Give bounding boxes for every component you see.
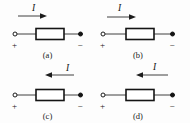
- panel-c-diagram: I + − (c): [0, 61, 95, 122]
- current-arrow-head-b: [129, 14, 136, 20]
- caption-c: (c): [43, 111, 53, 121]
- resistor-element-d: [126, 90, 154, 101]
- panel-a: I + − (a): [0, 0, 95, 61]
- plus-sign-c: +: [12, 101, 17, 111]
- left-terminal-a: [13, 32, 17, 36]
- panel-b: I + − (b): [95, 0, 190, 61]
- resistor-element-c: [36, 90, 64, 101]
- plus-sign-a: +: [12, 40, 17, 50]
- minus-sign-d: −: [170, 101, 175, 111]
- plus-sign-d: +: [100, 101, 105, 111]
- current-arrow-head-d: [136, 72, 143, 78]
- panel-d-diagram: I + − (d): [95, 61, 190, 122]
- panel-d: I + − (d): [95, 61, 190, 122]
- current-label-c: I: [65, 63, 70, 73]
- resistor-element-b: [126, 29, 154, 40]
- minus-sign-c: −: [78, 101, 83, 111]
- minus-sign-b: −: [170, 40, 175, 50]
- left-terminal-b: [101, 32, 105, 36]
- panel-b-diagram: I + − (b): [95, 0, 190, 61]
- panel-c: I + − (c): [0, 61, 95, 122]
- current-label-d: I: [152, 62, 157, 72]
- minus-sign-a: −: [78, 40, 83, 50]
- right-terminal-d: [171, 93, 175, 97]
- current-label-a: I: [31, 3, 36, 13]
- caption-d: (d): [133, 111, 143, 121]
- caption-b: (b): [133, 50, 143, 60]
- current-arrow-head-a: [40, 13, 47, 19]
- current-arrow-head-c: [45, 72, 52, 78]
- right-terminal-a: [79, 32, 83, 36]
- plus-sign-b: +: [100, 40, 105, 50]
- panel-a-diagram: I + − (a): [0, 0, 95, 61]
- right-terminal-b: [171, 32, 175, 36]
- left-terminal-c: [13, 93, 17, 97]
- right-terminal-c: [79, 93, 83, 97]
- current-label-b: I: [117, 3, 122, 13]
- resistor-element-a: [36, 29, 64, 40]
- caption-a: (a): [43, 50, 53, 60]
- left-terminal-d: [101, 93, 105, 97]
- circuit-figure: I + − (a) I + −: [0, 0, 190, 123]
